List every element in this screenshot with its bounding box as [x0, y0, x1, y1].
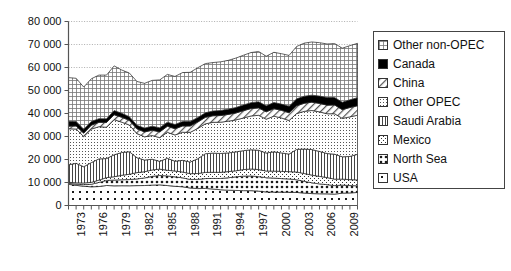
- x-tick-label: 1997: [257, 212, 269, 242]
- legend-item-other-non-opec[interactable]: Other non-OPEC: [374, 35, 504, 54]
- x-tick-label: 1973: [75, 212, 87, 242]
- legend-swatch-icon: [378, 40, 388, 50]
- y-tick-label: 0: [55, 199, 61, 211]
- y-tick-label: 60 000: [28, 61, 62, 73]
- x-tick-label: 1976: [97, 212, 109, 242]
- y-tick-label: 50 000: [28, 84, 62, 96]
- x-tick-label: 2009: [348, 212, 360, 242]
- x-tick-label: 1979: [120, 212, 132, 242]
- legend-item-usa[interactable]: USA: [374, 168, 504, 187]
- y-tick-label: 20 000: [28, 153, 62, 165]
- legend-swatch-icon: [378, 135, 388, 145]
- area-series-layer: [69, 42, 358, 206]
- legend-label: China: [393, 77, 424, 89]
- legend-swatch-icon: [378, 59, 388, 69]
- legend-label: North Sea: [393, 153, 447, 165]
- legend-swatch-icon: [378, 97, 388, 107]
- legend-label: Mexico: [393, 134, 431, 146]
- legend-item-saudi-arabia[interactable]: Saudi Arabia: [374, 111, 504, 130]
- legend-swatch-icon: [378, 116, 388, 126]
- stacked-area-chart: 010 00020 00030 00040 00050 00060 00070 …: [0, 0, 511, 271]
- legend-label: Other OPEC: [393, 96, 460, 108]
- x-tick-label: 2003: [303, 212, 315, 242]
- legend-swatch-icon: [378, 173, 388, 183]
- legend-label: Canada: [393, 58, 435, 70]
- y-tick-label: 30 000: [28, 130, 62, 142]
- x-tick-label: 1994: [234, 212, 246, 242]
- x-tick-label: 2006: [325, 212, 337, 242]
- chart-legend: Other non-OPECCanadaChinaOther OPECSaudi…: [373, 31, 505, 189]
- legend-item-china[interactable]: China: [374, 73, 504, 92]
- legend-item-other-opec[interactable]: Other OPEC: [374, 92, 504, 111]
- legend-item-mexico[interactable]: Mexico: [374, 130, 504, 149]
- legend-item-canada[interactable]: Canada: [374, 54, 504, 73]
- y-tick-label: 40 000: [28, 107, 62, 119]
- y-tick-label: 70 000: [28, 38, 62, 50]
- x-tick-label: 2000: [280, 212, 292, 242]
- legend-item-north-sea[interactable]: North Sea: [374, 149, 504, 168]
- x-tick-label: 1985: [166, 212, 178, 242]
- y-tick-label: 80 000: [28, 15, 62, 27]
- legend-label: USA: [393, 172, 418, 184]
- x-tick-label: 1988: [189, 212, 201, 242]
- x-tick-label: 1991: [211, 212, 223, 242]
- legend-swatch-icon: [378, 78, 388, 88]
- legend-label: Saudi Arabia: [393, 115, 461, 127]
- legend-swatch-icon: [378, 154, 388, 164]
- x-tick-label: 1982: [143, 212, 155, 242]
- legend-label: Other non-OPEC: [393, 39, 484, 51]
- y-tick-label: 10 000: [28, 176, 62, 188]
